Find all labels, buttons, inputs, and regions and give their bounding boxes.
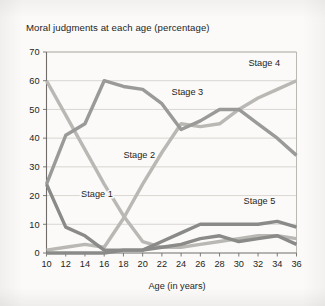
y-tick-label-50: 50 [29, 105, 39, 115]
y-axis-tick-labels: 010203040506070 [29, 47, 46, 258]
x-tick-label-24: 24 [176, 259, 186, 269]
x-tick-label-20: 20 [138, 259, 148, 269]
x-tick-label-36: 36 [291, 259, 301, 269]
series-label-stage-2: Stage 2 [123, 150, 155, 160]
x-tick-label-18: 18 [118, 259, 128, 269]
y-tick-label-10: 10 [29, 220, 39, 230]
x-tick-label-34: 34 [272, 259, 282, 269]
x-tick-label-22: 22 [157, 259, 167, 269]
y-tick-label-20: 20 [29, 191, 39, 201]
y-tick-label-30: 30 [29, 162, 39, 172]
x-tick-label-12: 12 [61, 259, 71, 269]
chart-figure: Moral judgments at each age (percentage)… [0, 0, 325, 306]
series-label-stage-5: Stage 5 [244, 196, 276, 206]
series-label-stage-1: Stage 1 [81, 189, 113, 199]
y-tick-label-0: 0 [34, 248, 39, 258]
x-axis-title: Age (in years) [148, 281, 205, 291]
y-tick-label-70: 70 [29, 47, 39, 57]
series-label-stage-4: Stage 4 [248, 58, 280, 68]
x-axis-tick-labels: 1012141618202224262830323436 [41, 253, 301, 269]
y-tick-label-60: 60 [29, 76, 39, 86]
line-chart-plot: 010203040506070 101214161820222426283032… [0, 0, 325, 306]
x-tick-label-14: 14 [80, 259, 90, 269]
series-label-stage-3: Stage 3 [172, 87, 204, 97]
x-tick-label-30: 30 [234, 259, 244, 269]
x-tick-label-32: 32 [253, 259, 263, 269]
y-tick-label-40: 40 [29, 133, 39, 143]
x-tick-label-16: 16 [99, 259, 109, 269]
x-tick-label-26: 26 [195, 259, 205, 269]
x-tick-label-28: 28 [214, 259, 224, 269]
series-line-stage-3 [47, 81, 297, 248]
x-tick-label-10: 10 [41, 259, 51, 269]
